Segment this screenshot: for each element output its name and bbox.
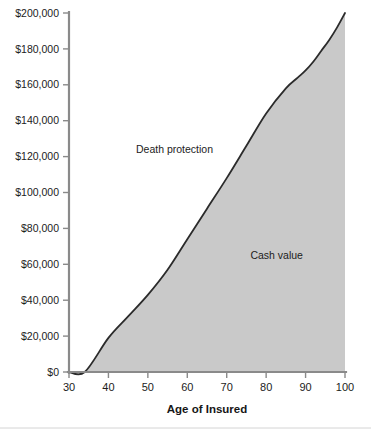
y-tick-label: $160,000 — [15, 78, 59, 90]
y-tick-label: $0 — [47, 366, 59, 378]
y-tick-label: $60,000 — [21, 258, 59, 270]
y-tick-label: $40,000 — [21, 294, 59, 306]
x-tick-label: 30 — [63, 381, 75, 393]
x-tick-label: 70 — [221, 381, 233, 393]
x-axis-title: Age of Insured — [167, 403, 248, 415]
y-tick-label: $200,000 — [15, 7, 59, 19]
x-tick-label: 80 — [260, 381, 272, 393]
annotation-cash-value: Cash value — [250, 249, 303, 261]
chart-container: $0$20,000$40,000$60,000$80,000$100,000$1… — [0, 0, 371, 430]
x-tick-label: 50 — [142, 381, 154, 393]
area-chart: $0$20,000$40,000$60,000$80,000$100,000$1… — [0, 0, 371, 430]
x-tick-label: 60 — [181, 381, 193, 393]
y-tick-label: $140,000 — [15, 114, 59, 126]
y-tick-label: $180,000 — [15, 43, 59, 55]
x-tick-label: 100 — [336, 381, 354, 393]
y-tick-label: $20,000 — [21, 330, 59, 342]
x-tick-label: 90 — [299, 381, 311, 393]
x-tick-label: 40 — [102, 381, 114, 393]
y-tick-label: $80,000 — [21, 222, 59, 234]
y-tick-label: $100,000 — [15, 186, 59, 198]
annotation-death-protection: Death protection — [136, 143, 213, 155]
y-tick-label: $120,000 — [15, 150, 59, 162]
